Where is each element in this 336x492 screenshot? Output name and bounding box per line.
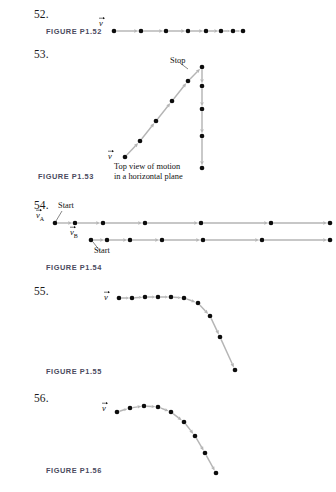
motion-dot [164,29,169,34]
motion-diagram [90,232,332,248]
velocity-subscript: A [40,216,44,222]
velocity-arrow [196,438,203,451]
motion-dot [200,134,205,139]
motion-dot [105,238,110,243]
velocity-arrow [158,103,171,119]
motion-dot [143,295,148,300]
velocity-arrow [174,296,182,299]
velocity-arrow [133,405,142,408]
motion-dot [182,296,187,301]
vector-arrow-icon [36,208,42,211]
motion-dot [269,221,274,226]
motion-dot [214,471,219,476]
velocity-arrow [142,123,155,139]
velocity-vector-label: vB [70,227,78,239]
velocity-arrow [135,296,143,299]
motion-dot [170,99,175,104]
velocity-arrow [200,70,204,84]
velocity-arrow [78,221,101,225]
motion-dot [123,155,128,160]
motion-dot [142,404,147,409]
motion-dot [139,29,144,34]
motion-dot [128,238,133,243]
problem-number: 55. [34,285,49,297]
velocity-arrow [200,305,208,314]
figure-caption: FIGURE P1.56 [46,466,102,475]
motion-dot [260,238,265,243]
figure-annotation: in a horizontal plane [114,172,183,181]
vector-arrow-icon [99,16,105,19]
motion-diagram [110,292,250,377]
motion-dot [199,221,204,226]
motion-dot [204,29,209,34]
motion-dot [200,107,205,112]
motion-diagram [54,215,332,231]
velocity-vector-label: v [99,18,103,28]
figure-annotation: Start [94,246,110,255]
velocity-arrow [191,29,204,33]
motion-dot [200,65,205,70]
velocity-arrow [165,238,201,242]
motion-dot [328,238,333,243]
motion-dot [186,79,191,84]
motion-dot [169,410,174,415]
motion-dot [143,221,148,226]
figure-caption: FIGURE P1.54 [46,263,102,272]
velocity-arrow [106,221,143,225]
velocity-vector-label: vA [36,210,44,222]
motion-diagram [105,22,265,40]
figure-caption: FIGURE P1.55 [46,367,102,376]
velocity-vector-label: v [102,403,106,413]
velocity-arrow [117,29,139,33]
velocity-arrow [236,30,241,32]
velocity-arrow [200,89,204,107]
motion-dot [200,84,205,89]
motion-dot [219,29,224,34]
motion-diagram-svg [90,232,332,248]
motion-dot [328,221,333,226]
velocity-arrow [200,112,204,134]
motion-dot [117,296,122,301]
motion-dot [208,314,213,319]
velocity-arrow [190,69,200,79]
motion-dot [186,29,191,34]
velocity-subscript: B [74,233,78,239]
figure-caption: FIGURE P1.52 [46,27,102,36]
motion-dot [201,238,206,243]
motion-dot [182,420,187,425]
velocity-arrow [110,238,128,242]
motion-dot [160,238,165,243]
motion-dot [130,296,135,301]
motion-diagram-svg [105,22,265,40]
motion-dot [138,139,143,144]
velocity-arrow [144,29,164,33]
vector-arrow-icon [104,290,110,293]
problem-number: 52. [34,8,49,20]
textbook-page: 52.FIGURE P1.5253.FIGURE P1.5354.FIGURE … [0,0,336,492]
velocity-arrow [206,455,214,470]
velocity-arrow [221,339,234,367]
motion-diagram [108,400,238,478]
motion-dot [156,295,161,300]
motion-dot [196,301,201,306]
vector-arrow-icon [108,149,114,152]
motion-dot [233,368,238,373]
velocity-arrow [173,414,182,421]
figure-annotation: Stop [170,56,185,65]
velocity-arrow [119,408,127,411]
velocity-arrow [204,221,269,225]
motion-dot [200,166,205,171]
motion-dot [154,119,159,124]
velocity-arrow [206,238,260,242]
motion-diagram-svg [108,400,238,478]
motion-dot [156,405,161,410]
velocity-arrow [122,297,130,300]
motion-dot [53,221,58,226]
problem-number: 56. [34,392,49,404]
motion-dot [218,335,223,340]
velocity-arrow [160,408,168,411]
velocity-arrow [209,29,219,32]
velocity-arrow [186,299,195,302]
motion-diagram-svg [110,292,250,377]
velocity-arrow [200,139,204,166]
